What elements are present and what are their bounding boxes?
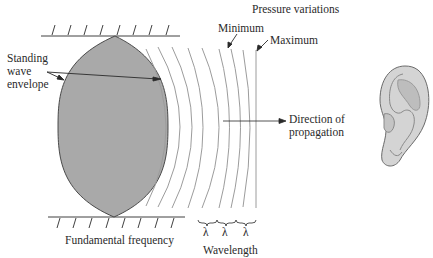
lambda-label-2: λ [222,226,228,239]
standing-wave-label-line3: envelope [7,78,49,91]
top-wall [41,25,180,36]
direction-label-line2: propagation [289,126,344,139]
standing-wave-label-line2: wave [7,65,31,78]
direction-label-line1: Direction of [289,113,345,126]
lambda-label-3: λ [243,226,249,239]
ear-icon [380,66,429,166]
diagram-graphics [0,0,433,258]
bottom-wall [48,217,185,228]
lambda-label-1: λ [203,226,209,239]
fundamental-frequency-label: Fundamental frequency [65,234,174,247]
wavelength-label: Wavelength [203,244,258,257]
pressure-variations-label: Pressure variations [252,3,339,16]
minimum-label: Minimum [218,22,264,35]
standing-wave-diagram: Pressure variations Minimum Maximum Stan… [0,0,433,258]
maximum-label: Maximum [270,34,318,47]
standing-wave-envelope [58,36,168,217]
standing-wave-label-line1: Standing [7,52,48,65]
propagation-arrow [223,119,286,124]
min-max-arrows [228,34,268,51]
